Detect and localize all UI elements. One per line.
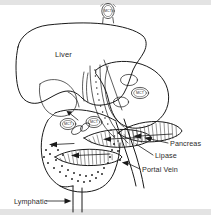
intestine-lumen-group <box>55 149 122 165</box>
stomach-mct-cell-label: MCT <box>136 91 145 95</box>
lymphatic-callout: Lymphatic <box>14 197 72 206</box>
lipase-label: Lipase <box>155 151 177 160</box>
gut-right-mct-cell-label: MCT <box>90 120 99 124</box>
gut-right-mct-cell-group: MCT <box>86 116 102 127</box>
portal-vein-label: Portal Vein <box>142 165 178 174</box>
portal-vein-callout: Portal Vein <box>122 161 178 174</box>
lymphatic-label: Lymphatic <box>14 197 48 206</box>
gut-left-mct-cell-group: MCT <box>60 118 76 129</box>
liver-group: Liver <box>16 23 146 116</box>
anatomical-diagram: MCT Liver MCT <box>0 0 211 215</box>
stomach-mct-cell-group: MCT <box>131 87 148 98</box>
liver-label: Liver <box>55 50 72 59</box>
diagram-page: MCT Liver MCT <box>0 0 211 215</box>
gut-small-cells <box>70 121 91 136</box>
gut-left-mct-cell-label: MCT <box>64 122 73 126</box>
top-mct-cell-label: MCT <box>104 9 113 13</box>
top-mct-cell-group: MCT <box>101 3 116 23</box>
lymphatic-duct-group <box>60 186 82 212</box>
pancreas-label: Pancreas <box>170 139 201 148</box>
